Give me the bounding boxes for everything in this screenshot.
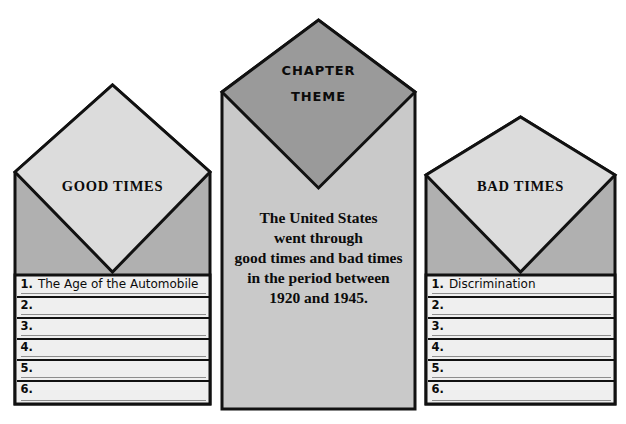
chapter-theme-flap-label-line1: CHAPTER <box>222 58 415 84</box>
list-item-number: 1. <box>428 277 444 291</box>
list-item-number: 3. <box>17 319 33 333</box>
good-times-rows-list[interactable]: 1.The Age of the Automobile2.3.4.5.6. <box>17 277 209 403</box>
list-item-number: 3. <box>428 319 444 333</box>
list-item-number: 6. <box>428 382 444 396</box>
list-item-number: 5. <box>17 361 33 375</box>
list-item[interactable]: 3. <box>428 319 614 340</box>
writing-rule-line <box>21 293 206 294</box>
list-item[interactable]: 4. <box>17 340 209 361</box>
bad-times-rows-list[interactable]: 1.Discrimination2.3.4.5.6. <box>428 277 614 403</box>
list-item-number: 4. <box>428 340 444 354</box>
bad-times-flap-label: BAD TIMES <box>426 178 615 195</box>
chapter-theme-flap-label-line2: THEME <box>222 84 415 110</box>
list-item-text[interactable] <box>33 382 209 383</box>
list-item-text[interactable] <box>444 319 614 320</box>
writing-rule-line <box>432 377 611 378</box>
list-item[interactable]: 2. <box>428 298 614 319</box>
writing-rule-line <box>432 293 611 294</box>
chapter-theme-statement-line: in the period between <box>222 268 415 288</box>
chapter-theme-statement-line: good times and bad times <box>222 248 415 268</box>
chapter-theme-statement-line: 1920 and 1945. <box>222 288 415 308</box>
list-item-number: 1. <box>17 277 33 291</box>
writing-rule-line <box>432 356 611 357</box>
writing-rule-line <box>432 335 611 336</box>
list-item[interactable]: 3. <box>17 319 209 340</box>
list-item-number: 6. <box>17 382 33 396</box>
chapter-theme-statement-line: went through <box>222 228 415 248</box>
list-item-text[interactable] <box>444 382 614 383</box>
list-item-text[interactable] <box>33 340 209 341</box>
list-item[interactable]: 1.The Age of the Automobile <box>17 277 209 298</box>
list-item-number: 2. <box>428 298 444 312</box>
writing-rule-line <box>21 377 206 378</box>
list-item-text[interactable] <box>444 361 614 362</box>
chapter-theme-statement-line: The United States <box>222 208 415 228</box>
list-item-text[interactable]: The Age of the Automobile <box>33 277 209 291</box>
writing-rule-line <box>21 314 206 315</box>
list-item-text[interactable] <box>444 340 614 341</box>
list-item-number: 5. <box>428 361 444 375</box>
list-item-text[interactable]: Discrimination <box>444 277 614 291</box>
envelope-organizer-graphic: GOOD TIMES CHAPTER THEME The United Stat… <box>0 0 626 424</box>
list-item[interactable]: 2. <box>17 298 209 319</box>
writing-rule-line <box>21 400 206 401</box>
list-item-text[interactable] <box>33 298 209 299</box>
list-item[interactable]: 5. <box>428 361 614 382</box>
list-item-number: 4. <box>17 340 33 354</box>
list-item-number: 2. <box>17 298 33 312</box>
list-item[interactable]: 6. <box>428 382 614 403</box>
writing-rule-line <box>432 400 611 401</box>
chapter-theme-statement: The United Stateswent throughgood times … <box>222 208 415 308</box>
list-item-text[interactable] <box>33 361 209 362</box>
list-item[interactable]: 5. <box>17 361 209 382</box>
writing-rule-line <box>21 356 206 357</box>
writing-rule-line <box>21 335 206 336</box>
list-item[interactable]: 4. <box>428 340 614 361</box>
chapter-theme-flap-label: CHAPTER THEME <box>222 58 415 110</box>
list-item-text[interactable] <box>33 319 209 320</box>
good-times-flap-label: GOOD TIMES <box>15 178 210 195</box>
list-item-text[interactable] <box>444 298 614 299</box>
list-item[interactable]: 6. <box>17 382 209 403</box>
writing-rule-line <box>432 314 611 315</box>
list-item[interactable]: 1.Discrimination <box>428 277 614 298</box>
